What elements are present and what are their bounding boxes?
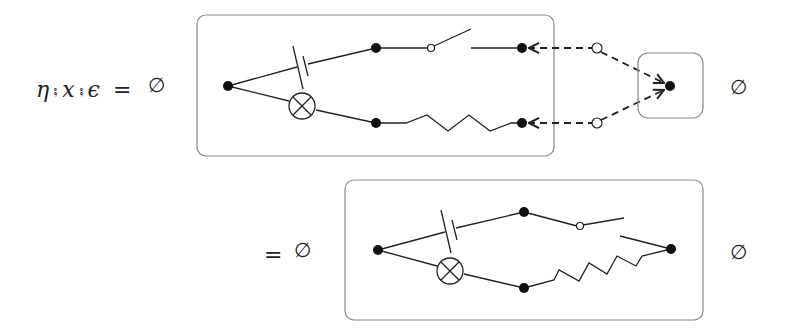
open-node — [592, 118, 602, 128]
row2-main-box — [345, 180, 703, 320]
node-dot — [223, 81, 233, 91]
circuit-diagram — [0, 0, 790, 331]
resistor-icon — [524, 249, 671, 288]
lamp-icon — [437, 258, 463, 284]
switch-icon — [376, 29, 522, 52]
node-dot — [517, 118, 527, 128]
node-dot — [665, 81, 675, 91]
switch-icon — [524, 212, 671, 249]
row1-main-box — [197, 15, 554, 156]
node-dot — [373, 245, 383, 255]
node-dot — [371, 118, 381, 128]
row1-cap-box — [638, 53, 703, 118]
resistor-icon — [376, 115, 522, 131]
node-dot — [519, 207, 529, 217]
dashed-connections — [529, 43, 664, 128]
node-dot — [519, 283, 529, 293]
capacitor-icon — [441, 210, 457, 253]
node-dot — [371, 43, 381, 53]
lamp-icon — [289, 93, 315, 119]
node-dot — [517, 43, 527, 53]
open-node — [592, 43, 602, 53]
node-dot — [666, 244, 676, 254]
